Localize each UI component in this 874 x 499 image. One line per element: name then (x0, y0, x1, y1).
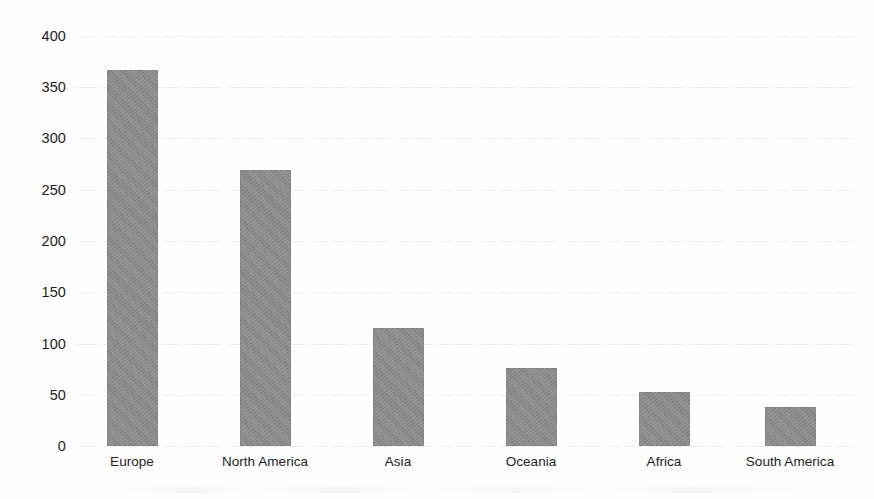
bar-chart: 400 350 300 250 200 150 100 50 0 (0, 0, 874, 499)
x-label-africa: Africa (647, 455, 682, 470)
bars-layer (0, 0, 874, 446)
x-label-europe: Europe (110, 455, 154, 470)
bar-oceania[interactable] (506, 368, 557, 446)
x-label-north-america: North America (222, 455, 308, 470)
bar-north-america[interactable] (240, 170, 291, 446)
x-label-south-america: South America (746, 455, 834, 470)
x-label-asia: Asia (385, 455, 411, 470)
bar-africa[interactable] (639, 392, 690, 446)
bar-south-america[interactable] (765, 407, 816, 446)
bar-asia[interactable] (373, 328, 424, 446)
plot-area: 400 350 300 250 200 150 100 50 0 (0, 0, 874, 499)
bar-europe[interactable] (107, 70, 158, 446)
gridline-0 (75, 446, 855, 447)
scan-artifact (110, 487, 810, 493)
x-label-oceania: Oceania (506, 455, 557, 470)
